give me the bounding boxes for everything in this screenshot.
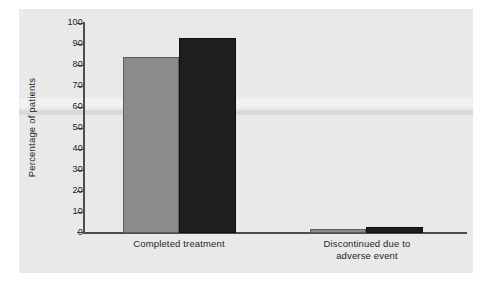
bar-completed-treatment-series-2 bbox=[179, 38, 236, 233]
y-tick-label-100: 100 bbox=[53, 18, 83, 27]
y-tick-label-70: 70 bbox=[53, 81, 83, 90]
x-category-label-discontinued-line2: adverse event bbox=[287, 250, 447, 262]
bar-discontinued-series-1 bbox=[310, 229, 366, 233]
bar-completed-treatment-series-1 bbox=[123, 57, 179, 233]
x-category-label-completed-treatment: Completed treatment bbox=[99, 238, 259, 250]
y-tick-label-30: 30 bbox=[53, 165, 83, 174]
y-tick-label-20: 20 bbox=[53, 186, 83, 195]
y-tick-label-50: 50 bbox=[53, 123, 83, 132]
chart-figure: 100 90 80 70 60 50 40 30 20 10 0 bbox=[0, 0, 491, 286]
y-tick-label-40: 40 bbox=[53, 144, 83, 153]
y-axis-title: Percentage of patients bbox=[26, 68, 37, 188]
y-tick-label-60: 60 bbox=[53, 102, 83, 111]
plot-area: 100 90 80 70 60 50 40 30 20 10 0 bbox=[0, 0, 491, 286]
y-tick-label-90: 90 bbox=[53, 39, 83, 48]
x-category-label-discontinued-line1: Discontinued due to bbox=[287, 238, 447, 250]
y-tick-label-0: 0 bbox=[53, 228, 83, 237]
bar-discontinued-series-2 bbox=[366, 227, 423, 233]
y-tick-label-10: 10 bbox=[53, 207, 83, 216]
y-tick-label-80: 80 bbox=[53, 60, 83, 69]
y-axis-line bbox=[83, 22, 85, 233]
